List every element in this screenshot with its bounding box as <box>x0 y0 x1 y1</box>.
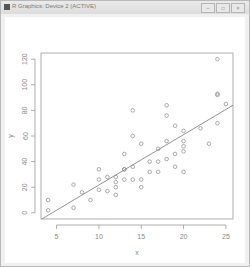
data-point <box>173 152 177 156</box>
y-tick-label: 20 <box>22 183 29 191</box>
data-point <box>131 165 135 169</box>
data-point <box>216 57 220 61</box>
window-title: R Graphics: Device 2 (ACTIVE) <box>12 3 96 9</box>
data-point <box>173 165 177 169</box>
r-app-icon <box>4 4 10 10</box>
data-point <box>165 157 169 161</box>
data-point <box>156 170 160 174</box>
data-point <box>224 102 228 106</box>
y-axis-label: y <box>7 134 15 138</box>
data-point <box>131 134 135 138</box>
data-point <box>123 178 127 182</box>
data-point <box>148 160 152 164</box>
minimize-button[interactable]: – <box>201 3 215 13</box>
data-point <box>114 175 118 179</box>
data-point <box>182 129 186 133</box>
data-point <box>182 144 186 148</box>
scatter-plot: 510152025020406080100120 x y <box>5 17 245 263</box>
data-point <box>139 178 143 182</box>
data-point <box>139 185 143 189</box>
data-point <box>216 121 220 125</box>
y-tick-label: 0 <box>22 211 29 215</box>
data-point <box>97 178 101 182</box>
data-point <box>114 193 118 197</box>
data-point <box>156 160 160 164</box>
x-tick-label: 10 <box>95 233 103 240</box>
data-point <box>97 188 101 192</box>
data-point <box>131 178 135 182</box>
data-point <box>114 185 118 189</box>
data-point <box>148 170 152 174</box>
data-point <box>89 198 93 202</box>
data-point <box>173 124 177 128</box>
data-point <box>46 198 50 202</box>
data-point <box>72 206 76 210</box>
data-point <box>72 183 76 187</box>
x-tick-label: 15 <box>137 233 145 240</box>
data-point <box>199 127 203 131</box>
data-point <box>165 103 169 107</box>
data-point <box>165 139 169 143</box>
maximize-button[interactable]: □ <box>216 3 230 13</box>
x-axis-label: x <box>135 249 139 256</box>
data-point <box>139 142 143 146</box>
close-button[interactable]: × <box>231 3 245 13</box>
data-point <box>182 139 186 143</box>
r-graphics-window: R Graphics: Device 2 (ACTIVE) – □ × 5101… <box>0 0 250 267</box>
data-point <box>123 152 127 156</box>
data-point <box>97 168 101 172</box>
regression-line <box>42 105 233 219</box>
y-tick-label: 40 <box>22 158 29 166</box>
data-point <box>106 175 110 179</box>
data-point <box>207 142 211 146</box>
y-tick-label: 80 <box>22 106 29 114</box>
data-point <box>182 170 186 174</box>
title-bar[interactable]: R Graphics: Device 2 (ACTIVE) – □ × <box>1 1 249 14</box>
data-point <box>80 191 84 195</box>
x-tick-label: 25 <box>222 233 230 240</box>
data-point <box>182 150 186 154</box>
data-point <box>46 208 50 212</box>
x-tick-label: 5 <box>55 233 59 240</box>
plot-canvas: 510152025020406080100120 x y <box>5 17 245 263</box>
data-point <box>165 114 169 118</box>
data-point <box>106 189 110 193</box>
y-tick-label: 100 <box>22 79 29 91</box>
x-tick-label: 20 <box>180 233 188 240</box>
plot-frame <box>41 53 233 219</box>
data-point <box>114 180 118 184</box>
data-point <box>131 109 135 113</box>
y-tick-label: 120 <box>22 53 29 65</box>
y-tick-label: 60 <box>22 132 29 140</box>
